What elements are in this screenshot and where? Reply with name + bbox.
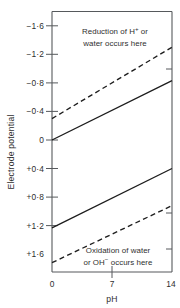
- chart-svg: −1·6 −1·2 −0·8 −0·4 0 +0·4 +0·8 +1·2 +1·…: [0, 0, 180, 308]
- curve-hydrogen-equilibrium: [52, 81, 172, 140]
- x-tick-label: 0: [50, 279, 55, 289]
- y-axis-title: Electrode potential: [6, 115, 16, 190]
- y-tick-label: +0·8: [27, 192, 45, 202]
- y-tick-label: −1·2: [27, 49, 45, 59]
- electrode-potential-chart: −1·6 −1·2 −0·8 −0·4 0 +0·4 +0·8 +1·2 +1·…: [0, 0, 180, 308]
- reduction-note-line-2: water occurs here: [82, 39, 147, 48]
- reduction-note-line-1: Reduction of H+ or: [82, 25, 148, 36]
- x-tick-label: 14: [166, 279, 176, 289]
- y-tick-labels: −1·6 −1·2 −0·8 −0·4 0 +0·4 +0·8 +1·2 +1·…: [27, 21, 45, 259]
- y-tick-label: 0: [39, 135, 44, 145]
- y-tick-label: +1·6: [27, 249, 45, 259]
- plot-axes: [52, 12, 172, 273]
- y-tick-label: +1·2: [27, 221, 45, 231]
- x-axis-title: pH: [106, 294, 117, 304]
- y-tick-label: −0·4: [27, 106, 45, 116]
- curve-oxygen-equilibrium: [52, 169, 172, 228]
- right-tick-marks: [166, 69, 172, 249]
- y-tick-label: +0·4: [27, 164, 45, 174]
- x-tick-labels: 0 7 14: [50, 279, 176, 289]
- y-tick-label: −0·8: [27, 78, 45, 88]
- reduction-annotation: Reduction of H+ or water occurs here: [82, 25, 148, 48]
- oxidation-note-line-1: Oxidation of water: [86, 246, 151, 255]
- curve-hydrogen-overpotential-limit: [52, 47, 172, 118]
- data-curves: [52, 47, 172, 263]
- x-tick-label: 7: [110, 279, 115, 289]
- oxidation-annotation: Oxidation of water or OH− occurs here: [84, 246, 154, 267]
- oxidation-note-line-2: or OH− occurs here: [84, 256, 154, 267]
- y-tick-label: −1·6: [27, 21, 45, 31]
